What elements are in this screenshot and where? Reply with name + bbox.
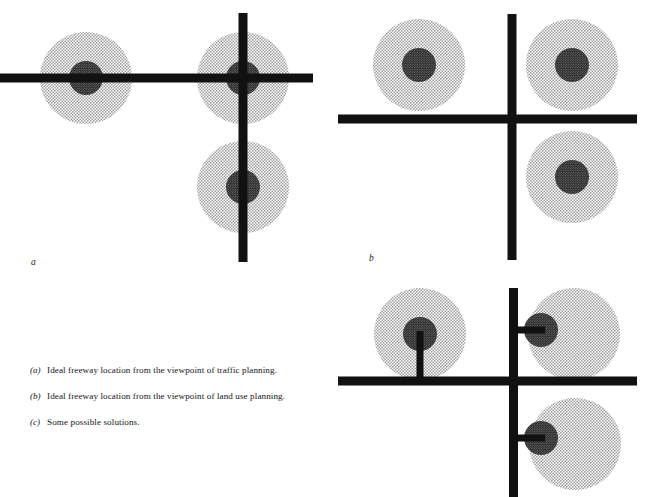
- settlement-northeast: [524, 288, 620, 380]
- settlement-southeast: [524, 398, 621, 490]
- figure-root: a: [0, 0, 662, 497]
- caption-marker-c: (c): [30, 416, 47, 429]
- road-vertical-freeway: [509, 288, 518, 497]
- panel-b-diagram: [338, 0, 662, 275]
- settlement-northwest: [373, 19, 465, 111]
- road-vertical-freeway: [508, 14, 517, 260]
- caption-text-a: Ideal freeway location from the viewpoin…: [47, 364, 300, 377]
- caption-block: (a) Ideal freeway location from the view…: [30, 364, 300, 429]
- panel-a-diagram: [0, 0, 330, 275]
- road-horizontal-freeway: [338, 377, 637, 386]
- caption-item-b: (b) Ideal freeway location from the view…: [30, 390, 300, 403]
- panel-a-label: a: [31, 258, 36, 268]
- caption-item-a: (a) Ideal freeway location from the view…: [30, 364, 300, 377]
- caption-marker-b: (b): [30, 390, 47, 403]
- settlement-northeast: [526, 19, 618, 111]
- settlement-northwest-core: [402, 48, 436, 82]
- caption-marker-a: (a): [30, 364, 47, 377]
- settlement-northeast-core: [555, 48, 589, 82]
- road-vertical-freeway: [239, 13, 248, 262]
- caption-text-c: Some possible solutions.: [47, 416, 300, 429]
- panel-b-label: b: [369, 254, 374, 264]
- road-horizontal-freeway: [0, 74, 313, 83]
- panel-a: a: [0, 0, 330, 275]
- road-horizontal-freeway: [338, 115, 637, 124]
- caption-item-c: (c) Some possible solutions.: [30, 416, 300, 429]
- panel-b: b: [338, 0, 662, 275]
- settlement-southeast-core: [555, 160, 589, 194]
- panel-c-diagram: [338, 285, 662, 497]
- caption-text-b: Ideal freeway location from the viewpoin…: [47, 390, 300, 403]
- panel-c: c: [338, 285, 662, 497]
- settlement-southeast: [526, 131, 618, 223]
